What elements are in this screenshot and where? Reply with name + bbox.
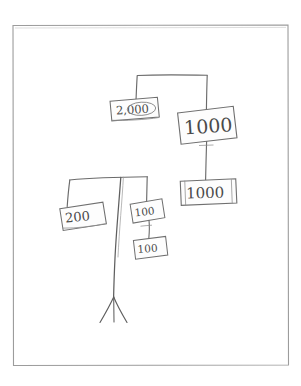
banknote-1000-lower[interactable]: 1000 bbox=[180, 179, 237, 206]
banknote-2000[interactable]: 2,000 bbox=[110, 97, 159, 121]
paper-background bbox=[0, 0, 301, 386]
connector-to-note-100-upper bbox=[147, 177, 148, 202]
sketch-page: 2,000 1000 1000 bbox=[0, 0, 301, 386]
banknote-1000-lower-label: 1000 bbox=[186, 184, 225, 203]
banknote-100-lower[interactable]: 100 bbox=[133, 236, 168, 259]
connector-top-crossbar bbox=[138, 75, 208, 76]
banknote-1000-upper[interactable]: 1000 bbox=[177, 106, 237, 144]
hand-drawn-diagram: 2,000 1000 1000 bbox=[0, 0, 301, 386]
banknote-100-lower-label: 100 bbox=[137, 241, 158, 254]
banknote-100-upper-label: 100 bbox=[134, 204, 155, 218]
banknote-200-label: 200 bbox=[64, 208, 90, 225]
banknote-1000-upper-label: 1000 bbox=[183, 113, 233, 138]
